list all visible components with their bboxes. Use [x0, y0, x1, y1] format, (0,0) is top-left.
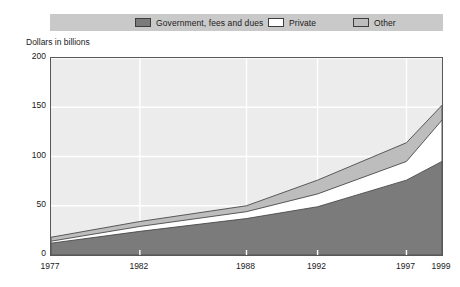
- y-tick-label: 150: [2, 100, 46, 110]
- legend-label-government: Government, fees and dues: [156, 18, 263, 28]
- x-tick-label: 1988: [236, 261, 255, 271]
- y-tick-label: 50: [2, 199, 46, 209]
- legend-item-government[interactable]: Government, fees and dues: [135, 18, 263, 28]
- legend-item-other[interactable]: Other: [353, 18, 396, 28]
- stacked-area-plot: [51, 58, 442, 255]
- x-tick-label: 1999: [432, 261, 451, 271]
- area-chart-figure: Government, fees and dues Private Other …: [0, 0, 460, 287]
- x-tick-label: 1992: [307, 261, 326, 271]
- legend-swatch-government-icon: [135, 18, 151, 27]
- y-axis-tick-labels: 050100150200: [0, 0, 46, 287]
- y-tick-label: 0: [2, 248, 46, 258]
- legend-item-private[interactable]: Private: [268, 18, 316, 28]
- plot-area: [50, 57, 443, 256]
- y-tick-label: 100: [2, 150, 46, 160]
- x-tick-label: 1982: [129, 261, 148, 271]
- x-tick-label: 1977: [41, 261, 60, 271]
- chart-legend: Government, fees and dues Private Other: [50, 14, 443, 31]
- y-tick-label: 200: [2, 51, 46, 61]
- legend-label-other: Other: [374, 18, 396, 28]
- legend-label-private: Private: [289, 18, 316, 28]
- legend-swatch-private-icon: [268, 18, 284, 27]
- x-tick-label: 1997: [396, 261, 415, 271]
- legend-swatch-other-icon: [353, 18, 369, 27]
